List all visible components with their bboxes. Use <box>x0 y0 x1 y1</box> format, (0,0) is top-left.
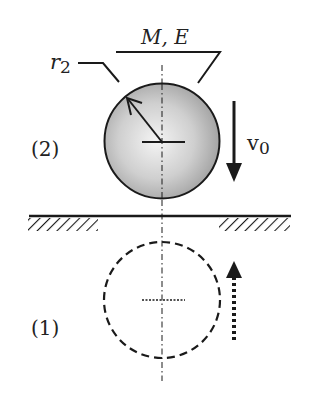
material-leader-line <box>116 52 220 83</box>
radius-subscript: 2 <box>60 57 71 77</box>
ground-hatch-right <box>219 218 290 231</box>
impact-surface <box>28 216 291 231</box>
mass-modulus-label: M, E <box>140 25 189 49</box>
radius-leader-line <box>78 63 119 82</box>
upper-sphere <box>105 84 220 199</box>
velocity-label: v0 <box>246 131 270 158</box>
ground-hatch-left <box>28 218 98 231</box>
arrow-up-icon <box>226 261 242 278</box>
velocity-arrow-down <box>226 101 242 182</box>
impact-diagram: M, E r2 v0 (2) (1) <box>0 0 309 405</box>
arrow-down-icon <box>226 163 242 182</box>
state-label-lower: (1) <box>31 316 59 340</box>
velocity-subscript: 0 <box>259 138 270 158</box>
radius-label: r2 <box>50 50 71 77</box>
velocity-symbol: v <box>246 131 259 155</box>
velocity-arrow-up <box>226 261 242 342</box>
state-label-upper: (2) <box>31 137 59 161</box>
